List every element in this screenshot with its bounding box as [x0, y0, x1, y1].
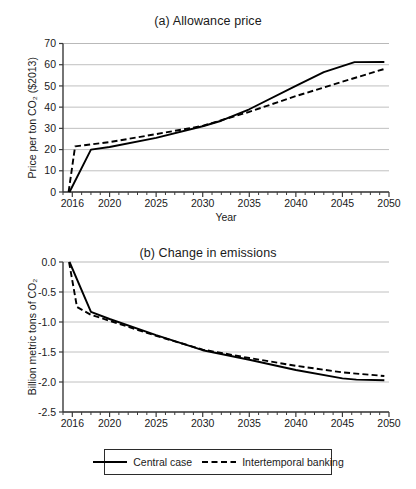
x-tick-label: 2016 — [61, 197, 85, 209]
x-tick-label: 2045 — [331, 417, 355, 429]
panel-a-plot: 0102030405060702016202020252030203520402… — [0, 0, 416, 232]
y-axis-title: Billion metric tons of CO₂ — [26, 279, 38, 396]
x-tick-label: 2040 — [284, 417, 308, 429]
legend-label-central-case: Central case — [133, 456, 192, 468]
series-line-central-case — [70, 62, 385, 192]
legend-entry-central-case: Central case — [92, 456, 192, 468]
series-line-intertemporal-banking — [69, 262, 384, 376]
y-tick-label: 60 — [44, 58, 56, 70]
chart-legend: Central case Intertemporal banking — [104, 449, 332, 475]
dashed-line-swatch — [201, 457, 237, 467]
x-tick-label: 2016 — [61, 417, 85, 429]
x-tick-label: 2045 — [331, 197, 355, 209]
y-tick-label: -2.0 — [38, 376, 56, 388]
x-tick-label: 2030 — [191, 417, 215, 429]
legend-label-intertemporal-banking: Intertemporal banking — [242, 456, 344, 468]
solid-line-swatch — [92, 457, 128, 467]
series-line-intertemporal-banking — [69, 69, 385, 192]
x-tick-label: 2035 — [238, 197, 262, 209]
y-tick-label: 30 — [44, 122, 56, 134]
y-axis-title: Price per ton CO₂ ($2013) — [26, 57, 38, 178]
x-axis-title: Year — [215, 211, 237, 223]
x-tick-label: 2050 — [377, 417, 401, 429]
x-tick-label: 2020 — [98, 417, 122, 429]
x-axis-title: Year — [215, 232, 237, 233]
y-tick-label: 50 — [44, 80, 56, 92]
y-tick-label: -1.5 — [38, 346, 56, 358]
y-tick-label: 40 — [44, 101, 56, 113]
x-tick-label: 2050 — [377, 197, 401, 209]
y-tick-label: 10 — [44, 164, 56, 176]
x-tick-label: 2040 — [284, 197, 308, 209]
x-tick-label: 2025 — [144, 417, 168, 429]
y-tick-label: -0.5 — [38, 286, 56, 298]
figure-container: (a) Allowance price 01020304050607020162… — [0, 0, 416, 489]
y-tick-label: 0 — [50, 186, 56, 198]
y-tick-label: 20 — [44, 143, 56, 155]
legend-entry-intertemporal-banking: Intertemporal banking — [201, 456, 344, 468]
series-line-central-case — [70, 262, 385, 380]
x-tick-label: 2030 — [191, 197, 215, 209]
x-tick-label: 2025 — [144, 197, 168, 209]
y-tick-label: 70 — [44, 37, 56, 49]
x-tick-label: 2020 — [98, 197, 122, 209]
chart-panel-change-in-emissions: (b) Change in emissions 0.0-0.5-1.0-1.5-… — [0, 232, 416, 432]
y-tick-label: -2.5 — [38, 406, 56, 418]
chart-panel-allowance-price: (a) Allowance price 01020304050607020162… — [0, 0, 416, 232]
y-tick-label: -1.0 — [38, 316, 56, 328]
panel-b-plot: 0.0-0.5-1.0-1.5-2.0-2.520162020202520302… — [0, 232, 416, 432]
x-tick-label: 2035 — [238, 417, 262, 429]
y-tick-label: 0.0 — [41, 256, 56, 268]
